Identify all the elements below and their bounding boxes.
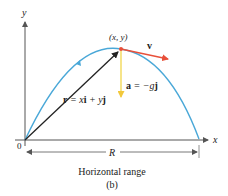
projectile-diagram: y x 0 (x, y) v a = −gj r = xi + yj R Hor…: [0, 0, 228, 196]
subfigure-label: (b): [106, 179, 118, 191]
origin-label: 0: [17, 141, 22, 151]
x-axis-label: x: [212, 134, 218, 145]
range-label: R: [108, 147, 115, 158]
position-label: r = xi + yj: [63, 94, 106, 105]
position-eq1: = x: [67, 94, 84, 105]
trajectory-curve: [25, 48, 199, 140]
diagram-canvas: y x 0 (x, y) v a = −gj r = xi + yj R Hor…: [0, 0, 228, 196]
acceleration-eq: = −g: [131, 80, 155, 91]
position-j: j: [102, 94, 106, 105]
position-eq2: + y: [86, 94, 103, 105]
velocity-label: v: [147, 40, 152, 51]
range-caption: Horizontal range: [78, 166, 146, 177]
acceleration-j: j: [154, 80, 158, 91]
y-axis-label: y: [21, 7, 27, 18]
particle-point: [119, 47, 123, 51]
point-label: (x, y): [109, 32, 127, 42]
acceleration-label: a = −gj: [126, 80, 158, 91]
